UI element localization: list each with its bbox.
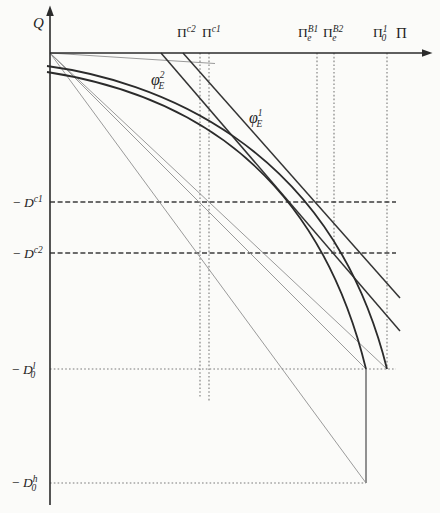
phi-e1-line	[183, 53, 400, 298]
tick-neg-d-c1: − Dc1	[13, 194, 43, 210]
tick-pi-c2: Πc2	[177, 24, 196, 40]
label-phi-e2: φ2E	[151, 70, 165, 91]
ray-to-pi01-corner	[50, 53, 387, 369]
tick-pi-c1: Πc1	[202, 24, 221, 40]
ray-to-d0h-corner	[50, 53, 366, 483]
label-pi-axis: Π	[396, 25, 407, 41]
tick-pi-e-b2: ΠB2e	[323, 24, 344, 43]
tick-neg-d0-l: − Dl0	[12, 361, 36, 380]
label-q-axis: Q	[33, 15, 44, 31]
tick-neg-d0-h: − Dh0	[12, 474, 38, 493]
ray-to-inner-corner	[50, 53, 366, 369]
value-curve-outer	[47, 66, 387, 369]
tick-pi-e-b1: ΠB1e	[298, 24, 318, 43]
pi-axis-arrowhead-icon	[422, 49, 433, 57]
tick-neg-d-c2: − Dc2	[13, 245, 43, 261]
value-curve-inner	[47, 72, 366, 369]
label-phi-e1: φ1E	[249, 108, 263, 129]
tick-pi-0-1: Π10	[373, 24, 388, 43]
q-axis-arrowhead-icon	[46, 6, 54, 17]
figure-canvas: Q Π Πc2 Πc1 ΠB1e ΠB2e Π10 φ2E φ1E − Dc1 …	[0, 0, 440, 513]
